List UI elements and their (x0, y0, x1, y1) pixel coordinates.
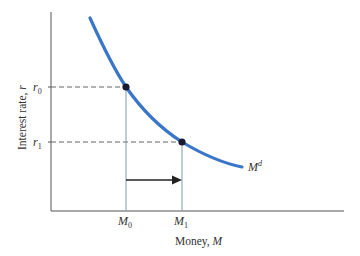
y-axis-title: Interest rate, r (16, 85, 29, 150)
point-r1-m1 (178, 138, 185, 145)
r0-label: r0 (33, 80, 42, 96)
point-r0-m0 (122, 83, 129, 90)
money-demand-chart: r0 r1 M0 M1 Money, M Interest rate, r Md (0, 0, 360, 256)
m0-label: M0 (117, 214, 132, 230)
money-demand-curve (90, 18, 242, 167)
x-axis-title: Money, M (175, 235, 224, 248)
shift-arrow-head-icon (172, 176, 182, 185)
m1-label: M1 (173, 214, 188, 230)
md-curve-label: Md (247, 159, 263, 174)
r1-label: r1 (33, 135, 42, 151)
